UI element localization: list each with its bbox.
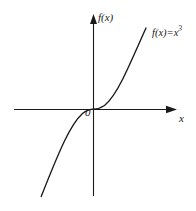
origin-label: 0 — [85, 107, 91, 118]
curve-equation-label: f(x)=x3 — [152, 25, 182, 38]
y-axis-arrowhead-icon — [90, 14, 97, 24]
x-axis-arrowhead-icon — [166, 106, 177, 113]
x-axis-label: x — [179, 113, 184, 124]
cubic-function-figure: f(x) x 0 f(x)=x3 — [0, 0, 196, 211]
y-axis-label: f(x) — [98, 12, 113, 23]
curve-equation-base: f(x)=x — [152, 27, 178, 38]
curve-equation-exponent: 3 — [178, 24, 182, 33]
